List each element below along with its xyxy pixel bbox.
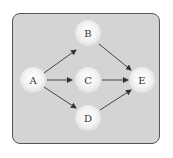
node-e-label: E [138, 75, 145, 86]
edge-b-e [99, 44, 131, 70]
node-b-label: B [84, 28, 91, 39]
edge-a-b [44, 50, 76, 73]
node-d: D [75, 105, 101, 131]
node-a-label: A [29, 75, 36, 86]
edge-d-e [100, 90, 131, 110]
node-c: C [75, 67, 101, 93]
node-b: B [75, 20, 101, 46]
node-e: E [129, 67, 155, 93]
edge-a-d [44, 87, 76, 108]
node-a: A [20, 67, 46, 93]
node-d-label: D [84, 113, 92, 124]
node-c-label: C [84, 75, 92, 86]
